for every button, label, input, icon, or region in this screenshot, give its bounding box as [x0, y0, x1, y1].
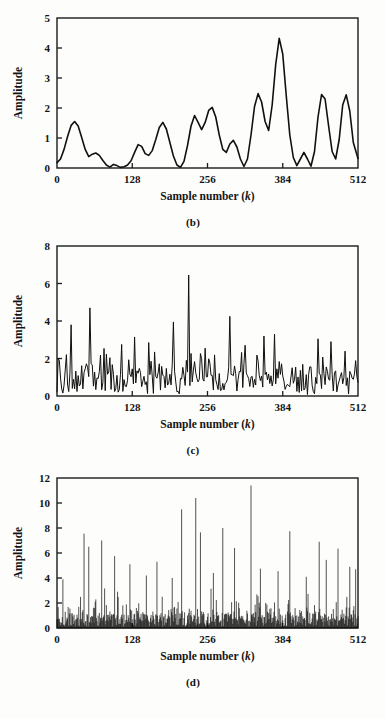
- x-tick-label: 0: [54, 633, 60, 645]
- y-axis-title: Amplitude: [12, 527, 25, 579]
- y-tick-label: 10: [39, 497, 51, 509]
- waveform-trace: [57, 38, 358, 167]
- x-tick-label: 256: [199, 401, 216, 413]
- y-tick-label: 5: [45, 12, 51, 24]
- x-tick-label: 512: [350, 173, 367, 185]
- y-tick-label: 4: [45, 572, 51, 584]
- figure-page: 0123450128256384512AmplitudeSample numbe…: [0, 0, 386, 718]
- x-axis-title: Sample number (k): [160, 418, 255, 431]
- panel-c: 024680128256384512AmplitudeSample number…: [0, 228, 386, 456]
- y-tick-label: 2: [45, 353, 51, 365]
- x-tick-label: 128: [124, 401, 141, 413]
- y-tick-label: 2: [45, 597, 51, 609]
- y-axis-title: Amplitude: [12, 295, 25, 347]
- plot-d: 0246810120128256384512AmplitudeSample nu…: [0, 456, 386, 678]
- y-tick-label: 0: [45, 390, 51, 402]
- panel-d: 0246810120128256384512AmplitudeSample nu…: [0, 456, 386, 688]
- x-tick-label: 384: [275, 401, 292, 413]
- plot-c: 024680128256384512AmplitudeSample number…: [0, 228, 386, 446]
- panel-d-caption: (d): [0, 676, 386, 688]
- x-tick-label: 128: [124, 173, 141, 185]
- y-tick-label: 8: [45, 240, 51, 252]
- x-tick-label: 256: [199, 633, 216, 645]
- plot-b: 0123450128256384512AmplitudeSample numbe…: [0, 0, 386, 218]
- y-tick-label: 0: [45, 622, 51, 634]
- y-tick-label: 8: [45, 522, 51, 534]
- y-tick-label: 4: [45, 315, 51, 327]
- y-tick-label: 6: [45, 278, 51, 290]
- y-tick-label: 3: [45, 72, 51, 84]
- x-tick-label: 0: [54, 173, 60, 185]
- x-tick-label: 384: [275, 173, 292, 185]
- y-tick-label: 2: [45, 102, 51, 114]
- panel-b-caption: (b): [0, 216, 386, 228]
- x-axis-title: Sample number (k): [160, 190, 255, 203]
- x-axis-title: Sample number (k): [160, 650, 255, 663]
- y-tick-label: 0: [45, 162, 51, 174]
- y-axis-title: Amplitude: [12, 67, 25, 119]
- y-tick-label: 1: [45, 132, 51, 144]
- y-tick-label: 4: [45, 42, 51, 54]
- x-tick-label: 256: [199, 173, 216, 185]
- x-tick-label: 512: [350, 633, 367, 645]
- panel-c-caption: (c): [0, 444, 386, 456]
- x-tick-label: 512: [350, 401, 367, 413]
- y-tick-label: 12: [39, 472, 51, 484]
- x-tick-label: 128: [124, 633, 141, 645]
- waveform-stems: [57, 486, 358, 629]
- y-tick-label: 6: [45, 547, 51, 559]
- x-tick-label: 0: [54, 401, 60, 413]
- waveform-trace: [57, 275, 358, 395]
- x-tick-label: 384: [275, 633, 292, 645]
- panel-b: 0123450128256384512AmplitudeSample numbe…: [0, 0, 386, 228]
